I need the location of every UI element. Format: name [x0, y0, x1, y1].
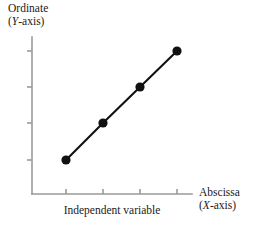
data-series-line — [66, 51, 177, 160]
data-point-marker — [61, 155, 70, 164]
data-point-marker — [98, 118, 107, 127]
data-point-marker — [172, 46, 181, 55]
axis-terminology-figure: Ordinate (Y-axis) Abscissa (X-axis) Depe… — [0, 0, 254, 228]
data-point-marker — [135, 82, 144, 91]
plot-area — [0, 0, 254, 228]
